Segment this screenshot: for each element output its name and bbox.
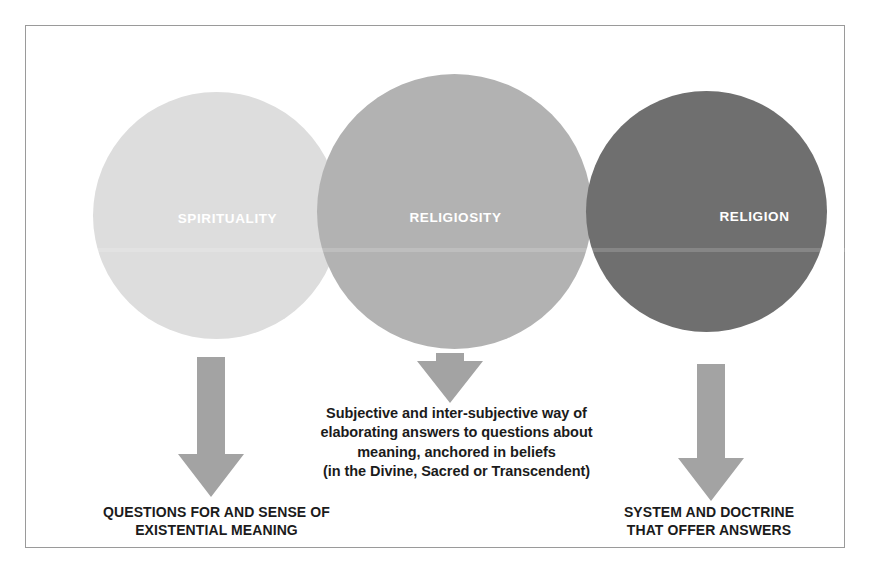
caption-religion-line-2: THAT OFFER ANSWERS xyxy=(564,521,854,539)
caption-religiosity-line-4: (in the Divine, Sacred or Transcendent) xyxy=(279,462,634,481)
circle-spirituality: SPIRITUALITY xyxy=(93,92,340,339)
caption-religiosity-line-2: elaborating answers to questions about xyxy=(279,423,634,442)
down-arrow-icon-religiosity xyxy=(417,353,483,403)
caption-religion-line-1: SYSTEM AND DOCTRINE xyxy=(564,503,854,521)
diagram-frame: SPIRITUALITY RELIGIOSITY RELIGION xyxy=(25,25,845,548)
caption-spirituality-line-1: QUESTIONS FOR AND SENSE OF xyxy=(64,503,369,521)
caption-religiosity-line-3: meaning, anchored in beliefs xyxy=(279,443,634,462)
circle-religiosity-label: RELIGIOSITY xyxy=(409,210,501,225)
down-arrow-icon-spirituality xyxy=(178,357,244,497)
caption-religiosity-line-1: Subjective and inter-subjective way of xyxy=(279,404,634,423)
caption-religion: SYSTEM AND DOCTRINE THAT OFFER ANSWERS xyxy=(564,503,854,539)
caption-religiosity: Subjective and inter-subjective way of e… xyxy=(279,404,634,482)
circle-religiosity: RELIGIOSITY xyxy=(317,74,592,349)
caption-spirituality-line-2: EXISTENTIAL MEANING xyxy=(64,521,369,539)
circle-religion: RELIGION xyxy=(586,91,827,332)
circle-religion-label: RELIGION xyxy=(719,209,789,224)
caption-spirituality: QUESTIONS FOR AND SENSE OF EXISTENTIAL M… xyxy=(64,503,369,539)
diagram-canvas: SPIRITUALITY RELIGIOSITY RELIGION xyxy=(0,0,870,576)
circle-spirituality-label: SPIRITUALITY xyxy=(178,211,277,226)
down-arrow-icon-religion xyxy=(678,364,744,501)
